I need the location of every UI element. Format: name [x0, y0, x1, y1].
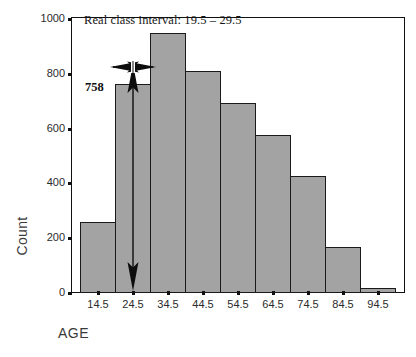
annotation-count-758: 758	[85, 80, 104, 95]
x-axis-tick	[307, 291, 310, 295]
x-axis-tick-label: 14.5	[78, 298, 118, 310]
x-axis-tick	[167, 291, 170, 295]
annotation-real-class-interval: Real class interval: 19.5 – 29.5	[84, 13, 242, 28]
x-axis-tick-label: 54.5	[218, 298, 258, 310]
histogram-bar	[290, 176, 326, 293]
x-axis-tick	[202, 291, 205, 295]
histogram-bar	[220, 103, 256, 293]
histogram-bar	[185, 71, 221, 293]
y-axis-tick-label: 200	[47, 231, 65, 243]
histogram-bar	[325, 247, 361, 293]
histogram-bar	[150, 33, 186, 293]
x-axis-tick	[97, 291, 100, 295]
x-axis-tick-label: 84.5	[323, 298, 363, 310]
x-axis-tick	[342, 291, 345, 295]
y-axis-tick	[68, 73, 72, 76]
y-axis-line	[71, 17, 72, 293]
y-axis-tick	[68, 182, 72, 185]
histogram-bar	[255, 135, 291, 293]
x-axis-tick-label: 94.5	[358, 298, 398, 310]
y-axis-tick	[68, 18, 72, 21]
y-axis-tick-label: 600	[47, 122, 65, 134]
arrow-left-icon	[110, 62, 139, 73]
y-axis-tick-label: 400	[47, 176, 65, 188]
x-axis-tick	[132, 291, 135, 295]
histogram-bar	[115, 84, 151, 293]
x-axis-tick-label: 74.5	[288, 298, 328, 310]
x-axis-title: AGE	[58, 325, 89, 341]
y-axis-tick	[68, 292, 72, 295]
x-axis-tick-label: 24.5	[113, 298, 153, 310]
x-axis-tick-label: 64.5	[253, 298, 293, 310]
y-axis-tick	[68, 128, 72, 131]
y-axis-tick-label: 0	[59, 286, 65, 298]
y-axis-title: Count	[14, 201, 30, 271]
x-axis-tick	[377, 291, 380, 295]
plot-right-border	[404, 17, 405, 293]
arrow-center-gap	[131, 61, 135, 73]
y-axis-tick-label: 1000	[41, 12, 65, 24]
histogram-figure: 0 200 400 600 800 1000 14.5 24.5 34.5 44…	[0, 0, 416, 357]
x-axis-tick	[272, 291, 275, 295]
x-axis-tick-label: 44.5	[183, 298, 223, 310]
y-axis-tick-label: 800	[47, 67, 65, 79]
histogram-bar	[80, 222, 116, 293]
x-axis-tick-label: 34.5	[148, 298, 188, 310]
x-axis-tick	[237, 291, 240, 295]
y-axis-tick	[68, 237, 72, 240]
